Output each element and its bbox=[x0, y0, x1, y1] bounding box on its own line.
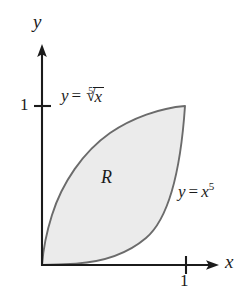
curve-lower-exponent: 5 bbox=[209, 180, 215, 192]
y-axis-label: y bbox=[33, 12, 41, 31]
figure-container: y x 1 1 R y=5√x y=x5 bbox=[0, 0, 250, 307]
curve-upper-equals: = bbox=[69, 86, 85, 105]
radical-group: 5√x bbox=[84, 86, 104, 104]
curve-upper-lhs: y bbox=[61, 86, 69, 105]
region-label-r: R bbox=[101, 168, 112, 186]
radical-index: 5 bbox=[88, 85, 93, 96]
curve-label-lower: y=x5 bbox=[178, 183, 214, 200]
region-r-shape bbox=[42, 106, 185, 265]
x-axis-label: x bbox=[225, 252, 233, 271]
curve-lower-equals: = bbox=[186, 182, 202, 201]
curve-lower-base: x bbox=[201, 182, 209, 201]
figure-canvas bbox=[0, 0, 250, 307]
curve-lower-lhs: y bbox=[178, 182, 186, 201]
radicand: x bbox=[93, 87, 104, 105]
x-axis-tick-label-1: 1 bbox=[180, 272, 189, 289]
y-axis-tick-label-1: 1 bbox=[20, 96, 29, 113]
curve-label-upper: y=5√x bbox=[61, 86, 104, 104]
